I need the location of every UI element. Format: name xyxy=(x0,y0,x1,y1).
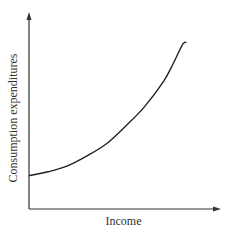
y-axis-arrow-icon xyxy=(27,12,32,20)
x-axis-arrow-icon xyxy=(213,207,221,212)
y-axis-label: Consumption expenditures xyxy=(6,54,21,183)
consumption-chart xyxy=(0,0,227,234)
consumption-curve xyxy=(29,42,186,176)
x-axis-label: Income xyxy=(0,214,227,229)
